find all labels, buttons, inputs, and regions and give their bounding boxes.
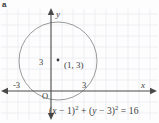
circle-graph-figure: a	[0, 0, 159, 123]
center-point-label: (1, 3)	[64, 60, 84, 70]
equation-equals-radius: = 16	[118, 106, 138, 116]
center-point-marker	[57, 59, 60, 62]
x-tick-label-3: 3	[82, 80, 86, 90]
circle-equation: (x − 1)2 + (y − 3)2 = 16	[49, 106, 139, 116]
equation-minus-h: − 1)	[57, 106, 76, 116]
x-axis	[1, 88, 157, 94]
x-tick-label-neg3: -3	[13, 80, 20, 90]
origin-label: O	[42, 91, 48, 101]
equation-plus: +	[78, 106, 88, 116]
y-axis-label: y	[55, 9, 60, 19]
y-tick-label-3: 3	[39, 57, 43, 67]
equation-minus-k: − 3)	[97, 106, 116, 116]
coordinate-plane: y x O -3 3 3 (1, 3)	[0, 0, 159, 123]
x-axis-label: x	[140, 80, 145, 90]
